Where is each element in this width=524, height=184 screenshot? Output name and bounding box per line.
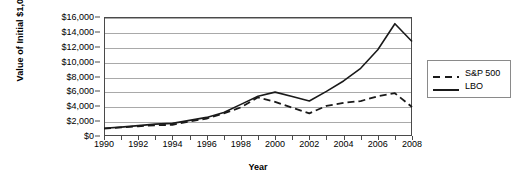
y-axis-tick	[95, 106, 100, 107]
legend-item: LBO	[433, 79, 504, 92]
y-axis-tick-label: $4,000	[66, 101, 94, 111]
y-axis-tick	[95, 61, 100, 62]
y-axis-tick-label: $0	[84, 131, 94, 141]
series-lines	[104, 17, 412, 136]
y-axis-tick-label: $8,000	[66, 72, 94, 82]
x-axis-tick-label: 1994	[162, 139, 182, 149]
chart-container: Value of Initial $1,000 $0$2,000$4,000$6…	[0, 0, 524, 184]
x-axis-labels: 1990199219941996199820002002200420062008	[104, 139, 412, 153]
y-axis-tick-label: $6,000	[66, 86, 94, 96]
x-axis-tick-label: 1998	[231, 139, 251, 149]
legend-swatch-dashed	[433, 68, 459, 78]
series-line-lbo	[104, 24, 412, 129]
y-axis-tick-label: $14,000	[61, 27, 94, 37]
x-axis-tick-label: 1996	[197, 139, 217, 149]
y-axis-tick-label: $10,000	[61, 57, 94, 67]
x-axis-tick-label: 2006	[368, 139, 388, 149]
y-axis-labels: $0$2,000$4,000$6,000$8,000$10,000$12,000…	[0, 17, 100, 136]
x-axis-tick-label: 2004	[334, 139, 354, 149]
x-axis-tick-label: 1990	[94, 139, 114, 149]
x-axis-tick-label: 2008	[402, 139, 422, 149]
legend-item: S&P 500	[433, 66, 504, 79]
y-axis-tick-label: $12,000	[61, 42, 94, 52]
x-axis-tick-label: 1992	[128, 139, 148, 149]
y-axis-tick-label: $2,000	[66, 116, 94, 126]
series-line-s-p-500	[104, 93, 412, 128]
y-axis-tick	[95, 17, 100, 18]
x-axis-tick-label: 2002	[299, 139, 319, 149]
x-axis-tick-label: 2000	[265, 139, 285, 149]
y-axis-tick	[95, 31, 100, 32]
y-axis-tick	[95, 136, 100, 137]
y-axis-tick	[95, 46, 100, 47]
legend-swatch-solid	[433, 81, 459, 91]
y-axis-tick-label: $16,000	[61, 12, 94, 22]
y-axis-tick	[95, 121, 100, 122]
x-axis-title: Year	[104, 162, 412, 172]
y-axis-tick	[95, 76, 100, 77]
legend-label: S&P 500	[465, 68, 500, 78]
legend-label: LBO	[465, 81, 483, 91]
y-axis-tick	[95, 91, 100, 92]
chart-legend: S&P 500LBO	[427, 60, 511, 98]
